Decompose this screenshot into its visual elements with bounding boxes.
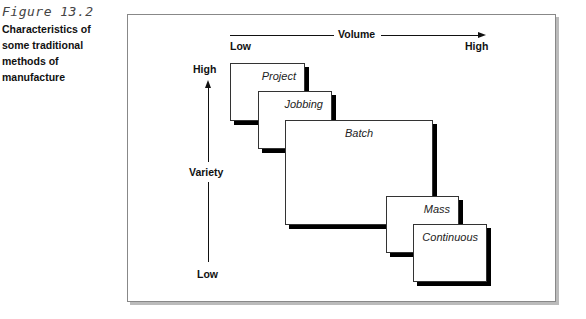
variety-axis-label: Variety xyxy=(189,166,223,178)
figure-caption: Figure 13.2 Characteristics of some trad… xyxy=(2,4,120,85)
arrow-right-icon xyxy=(478,32,486,38)
box-continuous-label: Continuous xyxy=(422,231,478,243)
variety-axis-line-top xyxy=(208,86,209,162)
box-jobbing-label: Jobbing xyxy=(284,98,323,110)
box-batch-label: Batch xyxy=(286,127,432,139)
volume-high-label: High xyxy=(465,40,488,52)
volume-axis-line-right xyxy=(381,35,479,36)
box-mass-label: Mass xyxy=(424,203,450,215)
figure-number: Figure 13.2 xyxy=(2,4,120,20)
volume-axis-line-left xyxy=(230,35,334,36)
volume-low-label: Low xyxy=(230,40,251,52)
volume-axis-label: Volume xyxy=(338,28,375,40)
figure-title: Characteristics of some traditional meth… xyxy=(2,21,120,85)
box-continuous: Continuous xyxy=(413,224,487,282)
variety-high-label: High xyxy=(193,63,216,75)
variety-axis-line-bottom xyxy=(208,182,209,262)
variety-low-label: Low xyxy=(197,268,218,280)
box-project-label: Project xyxy=(262,70,296,82)
